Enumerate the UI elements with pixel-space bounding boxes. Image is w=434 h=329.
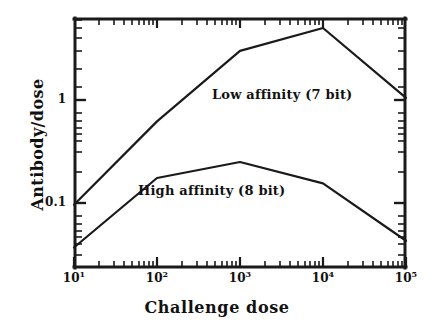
xtick-exponent-2: 3 — [246, 269, 252, 279]
chart-figure: 101 102 103 104 105 1 0.1 Challenge dose… — [0, 0, 434, 329]
x-axis-title: Challenge dose — [0, 298, 434, 317]
series-line-low-affinity — [74, 28, 406, 205]
y-axis-ticks — [75, 20, 86, 255]
xtick-exponent-3: 4 — [329, 269, 335, 279]
series-annotation-high-affinity: High affinity (8 bit) — [138, 183, 285, 198]
xtick-exponent-1: 2 — [163, 269, 169, 279]
y-axis-title: Antibody/dose — [28, 45, 47, 245]
xtick-label-0: 101 — [54, 271, 94, 285]
y-axis-ticks-right — [394, 28, 405, 255]
xtick-label-4: 105 — [386, 271, 426, 285]
series-line-high-affinity — [74, 162, 406, 247]
xtick-label-1: 102 — [137, 271, 177, 285]
xtick-label-2: 103 — [220, 271, 260, 285]
xtick-label-3: 104 — [303, 271, 343, 285]
xtick-exponent-0: 1 — [80, 269, 86, 279]
xtick-exponent-4: 5 — [412, 269, 418, 279]
series-annotation-low-affinity: Low affinity (7 bit) — [212, 87, 352, 102]
